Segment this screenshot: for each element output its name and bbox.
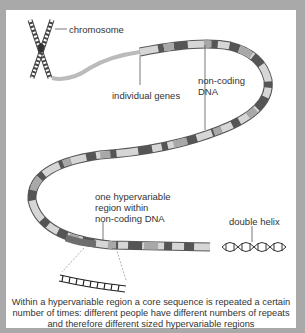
- double-helix-icon: [222, 243, 286, 252]
- caption: Within a hypervariable region a core seq…: [6, 297, 296, 330]
- double-helix-label: double helix: [229, 216, 280, 227]
- caption-line3: and therefore different sized hypervaria…: [6, 319, 296, 330]
- dna-diagram: [0, 0, 305, 333]
- chromosome-label: chromosome: [69, 24, 124, 35]
- hypervariable-line3: non-coding DNA: [95, 213, 171, 224]
- hypervariable-line1: one hypervariable: [95, 191, 171, 202]
- caption-line2: number of times: different people have d…: [6, 308, 296, 319]
- hypervariable-line2: region within: [95, 202, 171, 213]
- non-coding-line2: DNA: [198, 86, 245, 97]
- caption-line1: Within a hypervariable region a core seq…: [6, 297, 296, 308]
- non-coding-line1: non-coding: [198, 75, 245, 86]
- chromosome-icon: [30, 20, 52, 78]
- individual-genes-label: individual genes: [112, 90, 180, 101]
- non-coding-dna-label: non-coding DNA: [198, 75, 245, 97]
- repeat-ladder-icon: [59, 275, 126, 292]
- hypervariable-label: one hypervariable region within non-codi…: [95, 191, 171, 224]
